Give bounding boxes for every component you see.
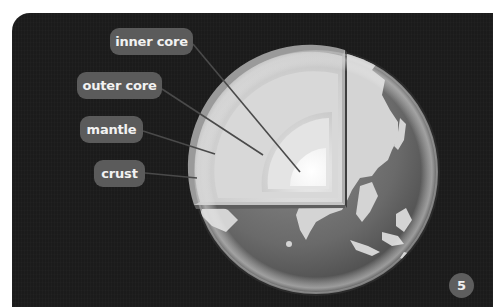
label-crust: crust xyxy=(94,160,145,187)
label-outer-core: outer core xyxy=(77,72,162,99)
page-number-badge: 5 xyxy=(449,273,474,298)
earth-globe-illustration xyxy=(0,0,493,307)
label-inner-core: inner core xyxy=(110,28,193,55)
label-mantle: mantle xyxy=(80,116,143,143)
